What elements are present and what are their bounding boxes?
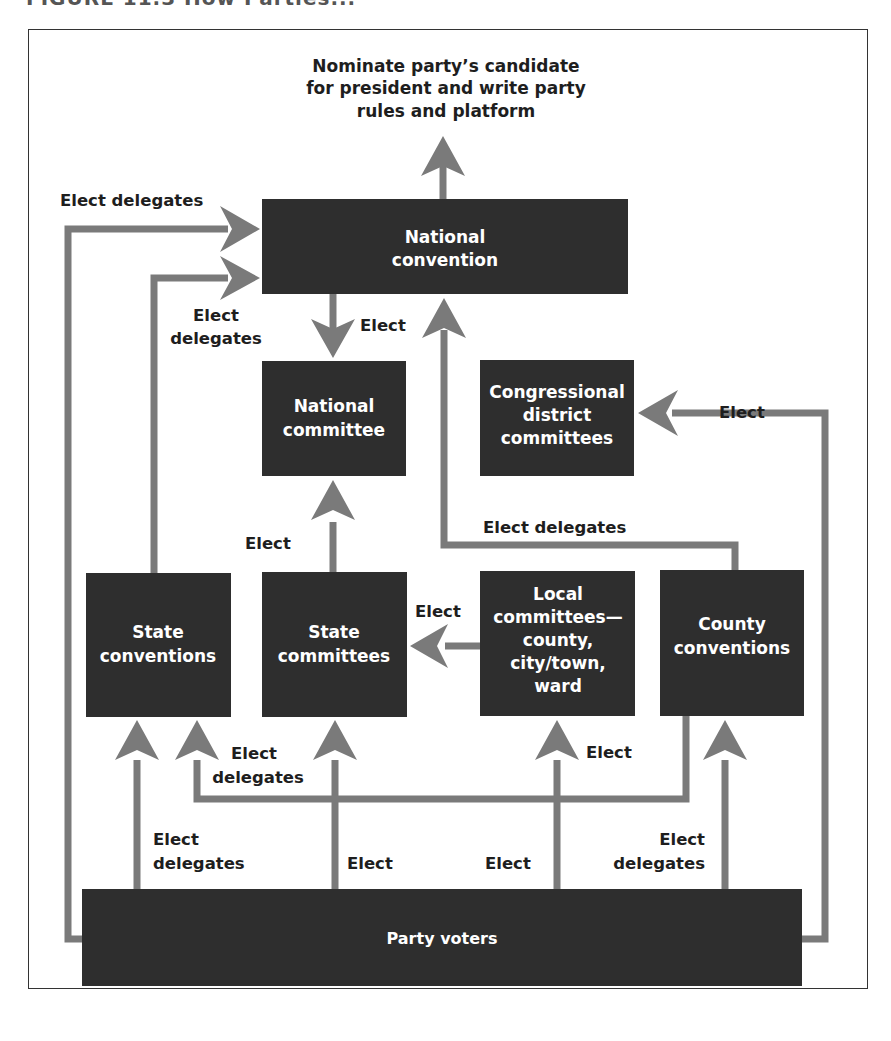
- arrowhead-up-icon: [535, 720, 579, 760]
- node-label: committees: [501, 428, 613, 448]
- top-note-line: rules and platform: [357, 101, 535, 121]
- party-organization-diagram: National convention National committee C…: [0, 0, 891, 1041]
- edge-label: Elect: [719, 403, 765, 422]
- edge-label: Elect: [586, 743, 632, 762]
- node-label: State: [132, 622, 184, 642]
- node-congressional-district-committees: Congressional district committees: [480, 360, 634, 476]
- edge-label: Elect: [347, 854, 393, 873]
- arrowhead-up-icon: [313, 720, 357, 760]
- edge-label: Elect: [485, 854, 531, 873]
- node-label: Local: [533, 584, 583, 604]
- edge-label: Elect: [153, 830, 199, 849]
- edge-label: Elect: [193, 306, 239, 325]
- edge-label: Elect: [231, 744, 277, 763]
- node-label: committee: [283, 420, 385, 440]
- edge-label: Elect delegates: [483, 518, 626, 537]
- edge-label: delegates: [153, 854, 245, 873]
- node-label: ward: [534, 676, 582, 696]
- node-county-conventions: County conventions: [660, 570, 804, 716]
- node-label: Party voters: [387, 929, 498, 948]
- top-note-line: for president and write party: [306, 78, 586, 98]
- node-label: district: [523, 405, 592, 425]
- node-label: Congressional: [489, 382, 625, 402]
- node-national-convention: National convention: [262, 199, 628, 294]
- edge-label: Elect: [245, 534, 291, 553]
- node-label: conventions: [100, 646, 216, 666]
- node-national-committee: National committee: [262, 361, 406, 476]
- edge-label: Elect: [415, 602, 461, 621]
- node-label: State: [308, 622, 360, 642]
- node-label: County: [698, 614, 766, 634]
- arrowhead-left-icon: [410, 624, 448, 668]
- arrowhead-up-icon: [175, 720, 219, 760]
- edge-label: Elect: [659, 830, 705, 849]
- edge-label: delegates: [170, 329, 262, 348]
- top-note: Nominate party’s candidate for president…: [306, 56, 586, 121]
- node-state-committees: State committees: [262, 572, 407, 717]
- node-label: National: [294, 396, 375, 416]
- node-label: county,: [523, 630, 593, 650]
- edge-label: delegates: [212, 768, 304, 787]
- node-label: conventions: [674, 638, 790, 658]
- edge-label: delegates: [613, 854, 705, 873]
- arrowhead-up-icon: [311, 480, 355, 520]
- top-note-line: Nominate party’s candidate: [312, 56, 579, 76]
- edge-label: Elect: [360, 316, 406, 335]
- node-state-conventions: State conventions: [86, 573, 231, 717]
- node-label: convention: [392, 250, 498, 270]
- node-local-committees: Local committees— county, city/town, war…: [480, 571, 635, 716]
- arrowhead-up-icon: [703, 720, 747, 760]
- node-label: National: [405, 227, 486, 247]
- node-label: city/town,: [510, 653, 605, 673]
- node-label: committees—: [493, 607, 622, 627]
- node-label: committees: [278, 646, 390, 666]
- node-party-voters: Party voters: [82, 889, 802, 986]
- arrowhead-up-icon: [115, 720, 159, 760]
- edge-label: Elect delegates: [60, 191, 203, 210]
